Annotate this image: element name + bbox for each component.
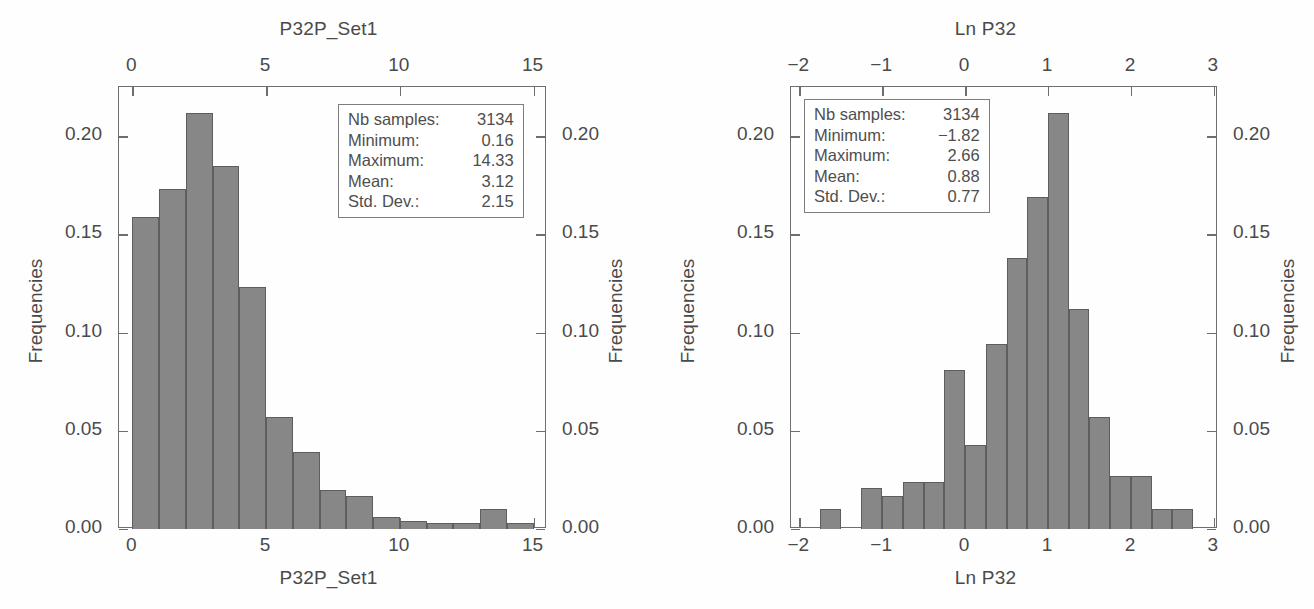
y-axis-tick-label: 0.10	[40, 320, 102, 342]
y-axis-tick	[1207, 431, 1216, 432]
y-axis-tick-label: 0.00	[1233, 516, 1295, 538]
x-axis-tick	[400, 87, 401, 96]
histogram-bar	[507, 523, 534, 529]
histogram-bar	[1089, 417, 1110, 529]
statistics-box-right: Nb samples:3134 Minimum:−1.82 Maximum:2.…	[804, 99, 990, 213]
histogram-bar	[132, 217, 159, 529]
x-axis-tick	[1131, 87, 1132, 96]
x-axis-tick-label: 3	[1183, 54, 1243, 76]
x-axis-tick-label: 1	[1017, 54, 1077, 76]
histogram-bar	[1110, 476, 1131, 529]
y-axis-tick-label: 0.00	[40, 516, 102, 538]
figure-root: P32P_Set1 P32P_Set1 Frequencies Frequenc…	[0, 0, 1314, 609]
stat-value: 0.16	[466, 130, 514, 151]
stat-value: 3.12	[466, 171, 514, 192]
y-axis-tick-label: 0.15	[40, 221, 102, 243]
stat-key: Maximum:	[814, 145, 916, 166]
x-axis-tick-label: 15	[503, 54, 563, 76]
y-axis-tick-label: 0.10	[562, 320, 624, 342]
stat-key: Maximum:	[348, 150, 450, 171]
stat-key: Std. Dev.:	[348, 191, 445, 212]
y-axis-tick	[119, 431, 128, 432]
x-axis-tick	[1048, 87, 1049, 96]
histogram-bar	[239, 287, 266, 529]
y-axis-tick	[791, 136, 800, 137]
y-axis-tick-label: 0.10	[712, 320, 774, 342]
y-axis-tick	[119, 333, 128, 334]
histogram-bar	[373, 517, 400, 529]
stat-row: Maximum:2.66	[814, 145, 980, 166]
x-axis-tick-label: 15	[503, 534, 563, 556]
y-axis-tick-label: 0.20	[562, 123, 624, 145]
y-axis-tick-label: 0.20	[40, 123, 102, 145]
y-axis-label-left: Frequencies	[25, 241, 47, 381]
y-axis-tick-label: 0.15	[1233, 221, 1295, 243]
stat-key: Nb samples:	[348, 109, 466, 130]
x-axis-tick-label: 0	[101, 54, 161, 76]
y-axis-tick-label: 0.15	[712, 221, 774, 243]
panel-title-bottom: Ln P32	[657, 567, 1314, 589]
histogram-bar	[1152, 509, 1173, 529]
panel-title-top: Ln P32	[657, 18, 1314, 40]
y-axis-tick	[1207, 529, 1216, 530]
y-axis-tick-label: 0.05	[562, 418, 624, 440]
stat-row: Maximum:14.33	[348, 150, 514, 171]
y-axis-tick	[119, 234, 128, 235]
x-axis-tick-label: −2	[768, 54, 828, 76]
stat-value: 3134	[466, 109, 514, 130]
x-axis-tick-label: 0	[934, 54, 994, 76]
x-axis-tick	[1214, 87, 1215, 96]
stat-row: Minimum:0.16	[348, 130, 514, 151]
panel-title-top: P32P_Set1	[0, 18, 657, 40]
histogram-bar	[1007, 258, 1028, 529]
histogram-bar	[986, 344, 1007, 529]
y-axis-tick	[791, 333, 800, 334]
x-axis-tick	[132, 87, 133, 96]
histogram-bar	[266, 417, 293, 529]
stat-row: Minimum:−1.82	[814, 125, 980, 146]
x-axis-tick	[799, 518, 800, 527]
x-axis-tick-label: −2	[768, 534, 828, 556]
panel-title-bottom: P32P_Set1	[0, 567, 657, 589]
stat-row: Std. Dev.:2.15	[348, 191, 514, 212]
stat-row: Mean:0.88	[814, 166, 980, 187]
histogram-bar	[924, 482, 945, 529]
x-axis-tick-label: −1	[851, 534, 911, 556]
stat-value: 0.88	[932, 166, 980, 187]
histogram-bar	[293, 452, 320, 529]
histogram-bar	[882, 496, 903, 529]
x-axis-tick	[266, 87, 267, 96]
y-axis-tick-label: 0.20	[712, 123, 774, 145]
stat-value: 0.77	[932, 186, 980, 207]
y-axis-tick	[119, 136, 128, 137]
y-axis-label-left: Frequencies	[677, 241, 699, 381]
histogram-panel-right: Ln P32 Ln P32 Frequencies Frequencies −2…	[657, 0, 1314, 609]
y-axis-tick	[536, 136, 545, 137]
x-axis-tick-label: 0	[934, 534, 994, 556]
x-axis-tick-label: 5	[235, 54, 295, 76]
x-axis-tick	[534, 518, 535, 527]
histogram-bar	[480, 509, 507, 529]
y-axis-tick-label: 0.05	[712, 418, 774, 440]
y-axis-tick-label: 0.10	[1233, 320, 1295, 342]
x-axis-tick	[882, 87, 883, 96]
stat-key: Minimum:	[814, 125, 912, 146]
y-axis-tick	[536, 529, 545, 530]
stat-value: 2.66	[932, 145, 980, 166]
histogram-bar	[820, 509, 841, 529]
x-axis-tick-label: 10	[369, 534, 429, 556]
histogram-bar	[346, 496, 373, 529]
y-axis-tick	[536, 333, 545, 334]
x-axis-tick-label: 5	[235, 534, 295, 556]
x-axis-tick-label: 10	[369, 54, 429, 76]
histogram-bar	[1069, 309, 1090, 529]
histogram-bar	[427, 523, 454, 529]
x-axis-tick	[534, 87, 535, 96]
y-axis-tick	[791, 431, 800, 432]
x-axis-tick	[1214, 518, 1215, 527]
y-axis-tick	[791, 234, 800, 235]
histogram-bar	[903, 482, 924, 529]
x-axis-tick-label: 2	[1100, 534, 1160, 556]
histogram-bar	[944, 370, 965, 529]
x-axis-tick	[965, 87, 966, 96]
